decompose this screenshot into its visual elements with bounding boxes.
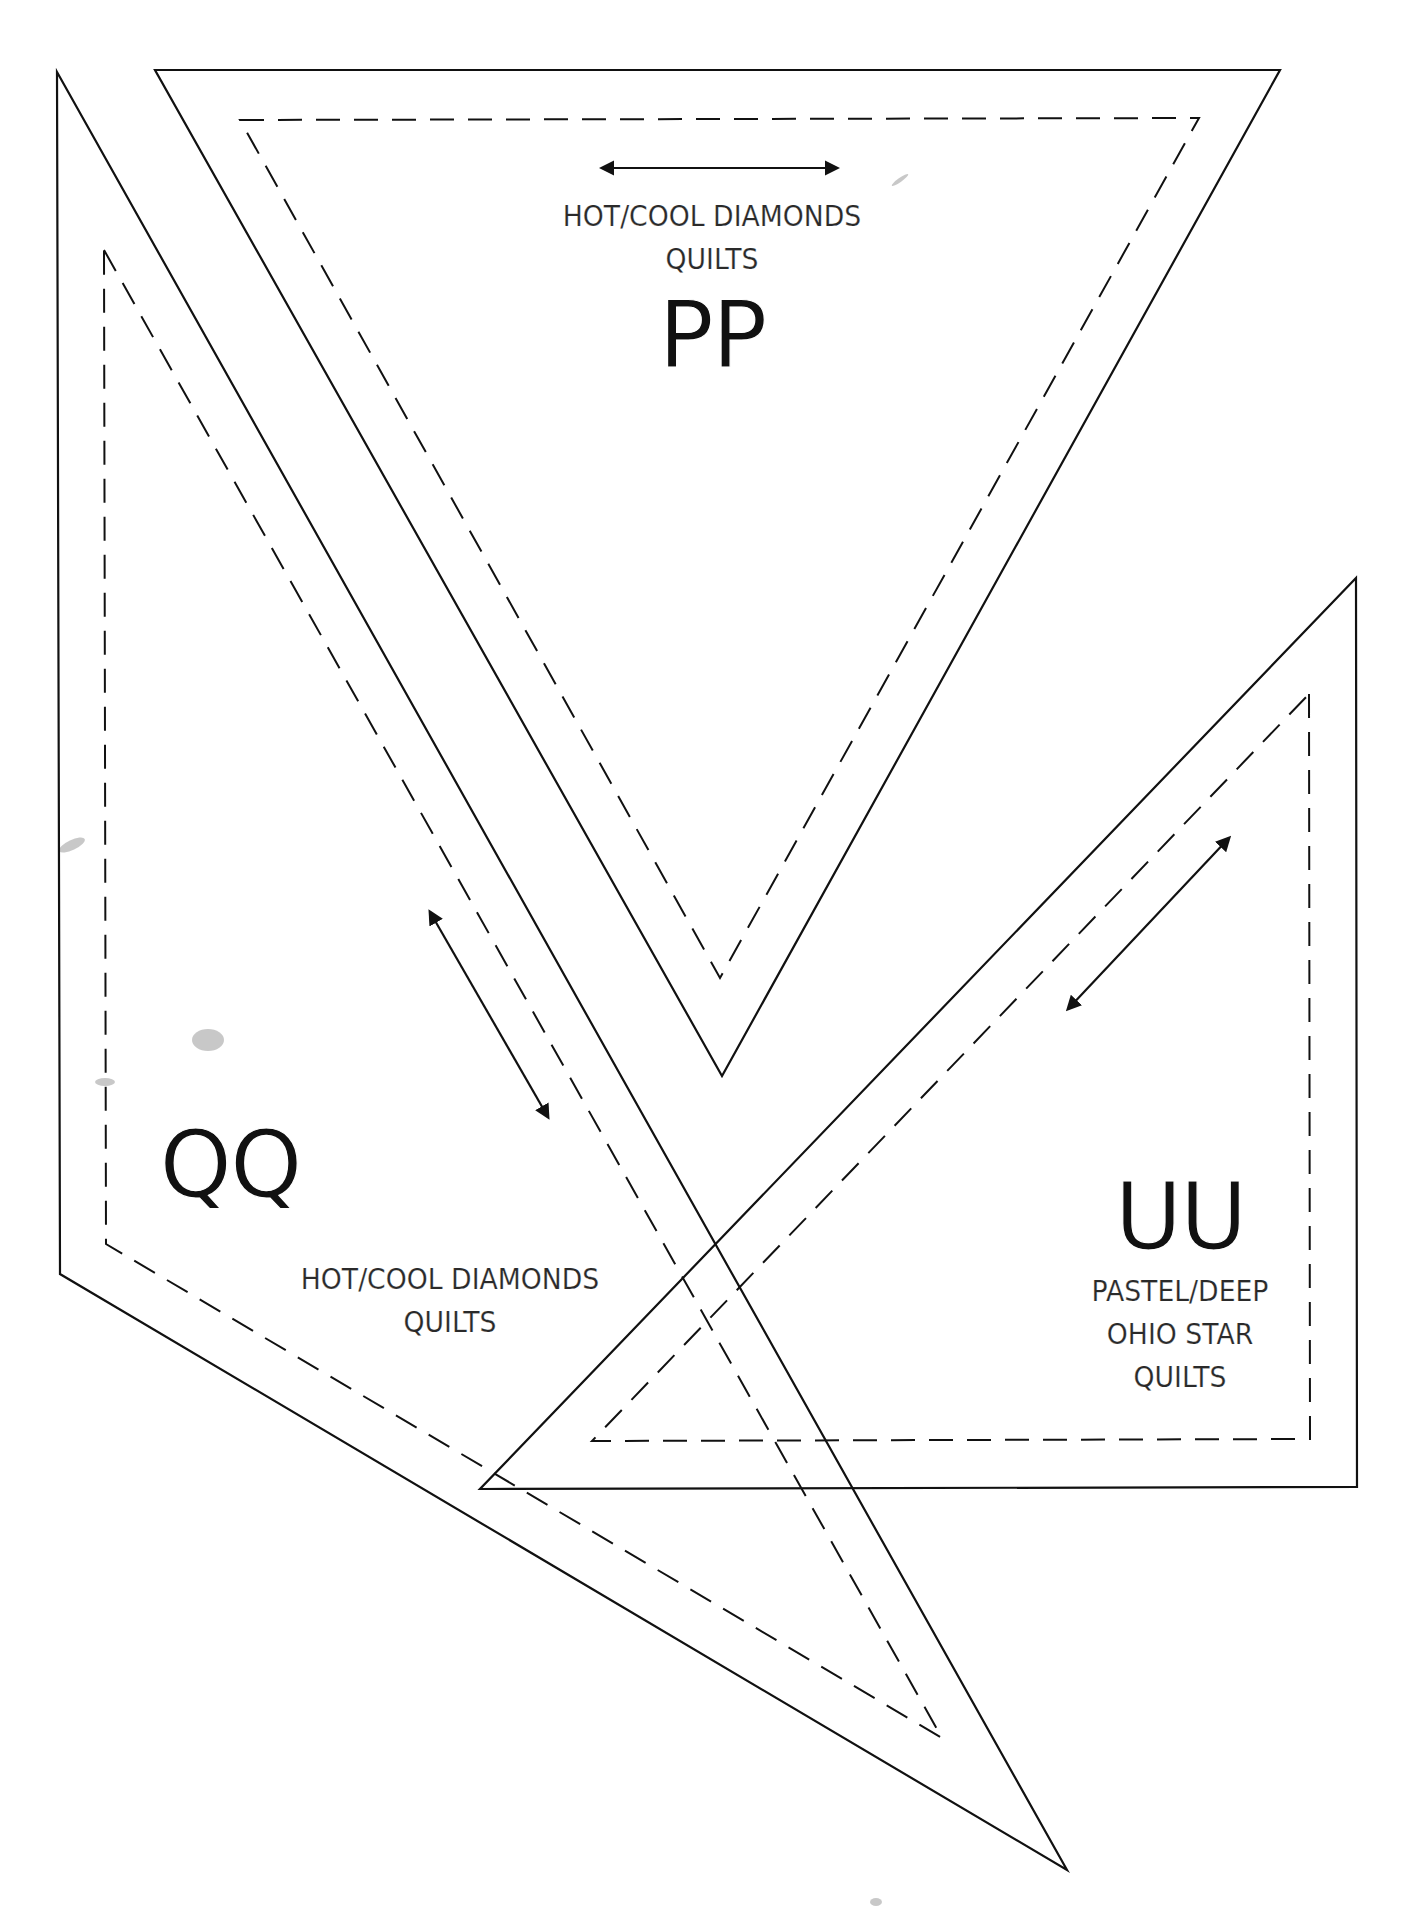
uu-title-line1: PASTEL/DEEP [1042,1270,1318,1312]
pp-title-line2: QUILTS [482,238,942,280]
uu-title-line2: OHIO STAR [1042,1313,1318,1355]
qq-cut-line [57,72,1067,1870]
qq-code: QQ [140,1120,320,1212]
qq-grain-arrow-icon [430,912,548,1117]
qq-title-line2: QUILTS [220,1301,680,1343]
scan-smudges [57,173,909,1906]
uu-grain-arrow-icon [1068,838,1229,1009]
uu-code: UU [1080,1172,1280,1264]
qq-title-line1: HOT/COOL DIAMONDS [220,1258,680,1300]
pp-title-line1: HOT/COOL DIAMONDS [482,195,942,237]
template-qq [57,72,1067,1870]
uu-title-line3: QUILTS [1042,1356,1318,1398]
qq-seam-line [104,250,942,1738]
pp-code: PP [612,290,812,382]
